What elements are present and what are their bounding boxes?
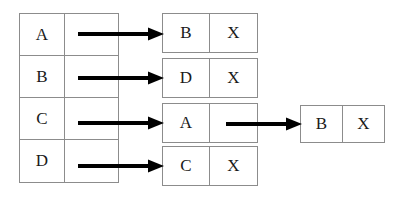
- node-next-cell: [210, 104, 257, 142]
- node-box: B X: [162, 13, 258, 53]
- tail-node-box: B X: [300, 105, 385, 143]
- node-box: C X: [162, 146, 258, 186]
- node-box: D X: [162, 58, 258, 98]
- index-row: B: [20, 56, 118, 98]
- node-key-cell: C: [163, 147, 210, 185]
- tail-node-next-cell: X: [343, 106, 384, 142]
- index-pointer-cell: [65, 56, 118, 97]
- tail-node-key-cell: B: [301, 106, 343, 142]
- index-pointer-cell: [65, 14, 118, 55]
- index-key-cell: C: [20, 98, 65, 139]
- index-row: D: [20, 140, 118, 182]
- node-next-cell: X: [210, 59, 257, 97]
- node-key-cell: B: [163, 14, 210, 52]
- node-next-cell: X: [210, 147, 257, 185]
- index-key-cell: D: [20, 140, 65, 182]
- index-pointer-cell: [65, 98, 118, 139]
- node-key-cell: A: [163, 104, 210, 142]
- index-table: A B C D: [19, 13, 119, 183]
- index-row: A: [20, 14, 118, 56]
- node-box: A: [162, 103, 258, 143]
- hash-chaining-diagram: A B C D B X D X A C X B X: [0, 0, 417, 199]
- index-row: C: [20, 98, 118, 140]
- index-pointer-cell: [65, 140, 118, 182]
- node-next-cell: X: [210, 14, 257, 52]
- node-key-cell: D: [163, 59, 210, 97]
- index-key-cell: A: [20, 14, 65, 55]
- index-key-cell: B: [20, 56, 65, 97]
